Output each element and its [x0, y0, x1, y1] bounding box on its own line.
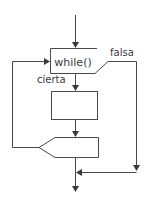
- while-label: while(): [54, 56, 91, 69]
- body-to-connector-arrow: [72, 120, 79, 138]
- false-branch-label: falsa: [110, 47, 134, 58]
- loop-body-box: [52, 92, 98, 120]
- loopback-connector: [39, 138, 99, 158]
- entry-arrow: [72, 15, 79, 48]
- false-branch-arrow: [76, 62, 140, 177]
- true-branch-arrow: [72, 74, 79, 91]
- loopback-arrow: [13, 58, 51, 148]
- exit-arrow-icon: [72, 186, 79, 192]
- while-flowchart: while() falsa cierta: [0, 0, 147, 204]
- true-branch-label: cierta: [37, 74, 66, 85]
